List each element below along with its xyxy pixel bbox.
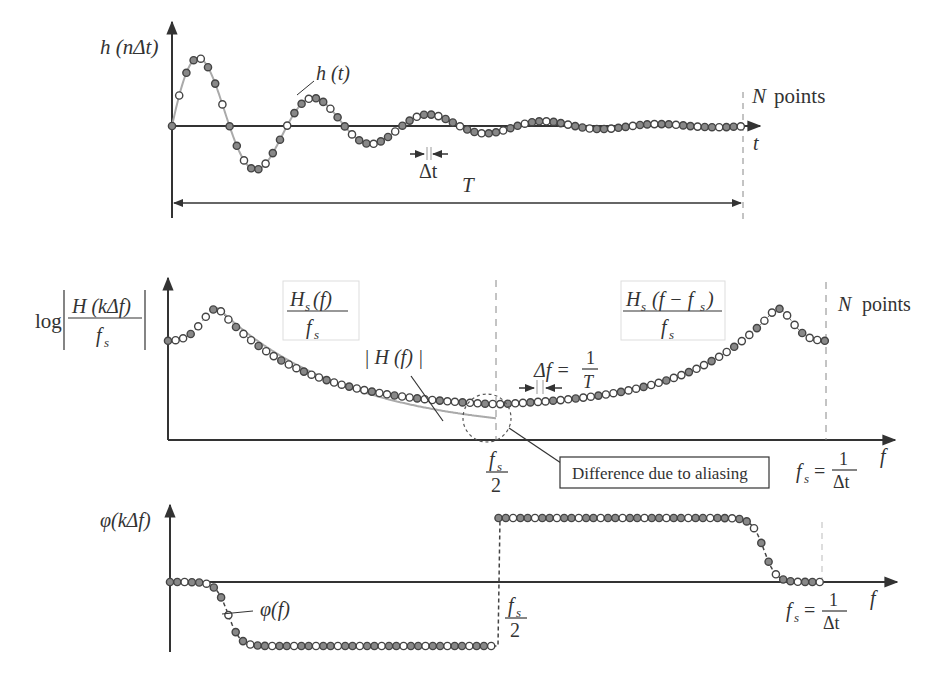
- bot-half-fs-tick-label: f s 2: [505, 594, 527, 641]
- svg-text:=: =: [804, 599, 815, 621]
- df-indicator: [519, 380, 562, 394]
- svg-text:2: 2: [491, 474, 501, 496]
- T-label: T: [462, 173, 475, 197]
- top-y-label: h (nΔt): [100, 35, 158, 59]
- t-axis-label: t: [753, 132, 759, 154]
- h-t-label: h (t): [316, 62, 350, 85]
- svg-text:s: s: [104, 335, 109, 350]
- svg-text:f: f: [508, 594, 516, 617]
- svg-text:Δt: Δt: [823, 613, 840, 633]
- h-t-curve: [172, 58, 743, 170]
- aliasing-figure: h (nΔt) h (t) t Δt T N points log H (: [0, 0, 940, 679]
- phase-spectrum-chart: φ(kΔf) φ(f) f s 2 f s = 1 Δt f: [100, 505, 897, 652]
- svg-text:f: f: [786, 599, 794, 622]
- bot-fs-tick-label: f s = 1 Δt: [786, 590, 847, 633]
- svg-text:H (kΔf): H (kΔf): [71, 295, 131, 318]
- svg-text:f: f: [489, 448, 497, 471]
- Hs-f-minus-fs-box: H s (f − f s ) f s: [621, 281, 725, 342]
- svg-text:Δf =: Δf =: [533, 359, 570, 382]
- svg-text:1: 1: [829, 590, 838, 610]
- time-domain-chart: h (nΔt) h (t) t Δt T N points: [100, 22, 825, 220]
- aliasing-callout-leader: [509, 428, 561, 463]
- svg-text:s: s: [641, 299, 646, 314]
- mid-f-axis-label: f: [880, 445, 888, 468]
- svg-text:s: s: [794, 610, 799, 625]
- dt-indicator: [410, 147, 448, 160]
- mid-n-label: N: [837, 293, 853, 315]
- top-points-label: points: [774, 84, 825, 108]
- svg-text:s: s: [700, 299, 705, 314]
- svg-text:1: 1: [586, 348, 595, 368]
- true-H-f-label: | H (f) |: [364, 346, 423, 369]
- svg-text:f: f: [96, 324, 104, 347]
- h-t-sample-points: [168, 55, 744, 173]
- svg-text:T: T: [583, 372, 595, 392]
- h-t-label-leader: [297, 81, 314, 95]
- svg-text:log: log: [35, 309, 62, 333]
- mid-points-label: points: [862, 293, 911, 316]
- dt-label: Δt: [419, 160, 438, 182]
- svg-text:f: f: [661, 316, 669, 339]
- svg-text:2: 2: [510, 619, 520, 641]
- svg-text:H: H: [625, 288, 642, 310]
- magnitude-spectrum-chart: log H (kΔf) f s H s (f) f s H s (f − f s…: [35, 278, 911, 496]
- bot-f-axis-label: f: [870, 587, 878, 610]
- svg-text:s: s: [804, 471, 809, 486]
- svg-text:): ): [706, 288, 714, 311]
- svg-text:s: s: [669, 327, 674, 342]
- svg-text:s: s: [305, 299, 310, 314]
- svg-text:Difference due to aliasing: Difference due to aliasing: [572, 464, 748, 483]
- top-n-label: N: [751, 84, 767, 108]
- svg-text:f: f: [796, 460, 804, 483]
- bot-y-label: φ(kΔf): [100, 509, 151, 532]
- phi-f-label: φ(f): [260, 598, 290, 621]
- aliasing-callout-box: Difference due to aliasing: [560, 457, 769, 488]
- svg-text:(f − f: (f − f: [652, 288, 696, 311]
- svg-text:Δt: Δt: [833, 472, 850, 492]
- svg-text:1: 1: [839, 449, 848, 469]
- mid-half-fs-tick-label: f s 2: [486, 448, 508, 496]
- mid-fs-tick-label: f s = 1 Δt: [796, 449, 857, 492]
- svg-text:f: f: [306, 316, 314, 339]
- svg-text:s: s: [314, 327, 319, 342]
- Hs-f-box: H s (f) f s: [283, 281, 359, 342]
- mid-y-label: log H (kΔf) f s: [35, 290, 145, 350]
- svg-text:H: H: [289, 288, 306, 310]
- svg-text:(f): (f): [313, 288, 332, 311]
- svg-text:=: =: [814, 460, 825, 482]
